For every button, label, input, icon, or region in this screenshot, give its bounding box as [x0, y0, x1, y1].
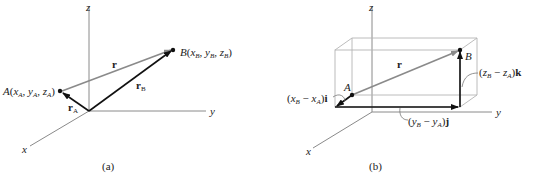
caption-a: (a) [102, 160, 115, 173]
label-component-z: (zB − zA)k [479, 66, 522, 80]
label-r: r [112, 58, 117, 70]
point-A [58, 89, 62, 93]
point-A-b [350, 93, 354, 97]
label-point-B-coords: B(xB, yB, zB) [180, 46, 232, 60]
leader-y [400, 108, 408, 120]
label-component-x: (xB − xA)i [287, 92, 327, 106]
x-axis [30, 111, 89, 146]
component-x-vector [337, 95, 352, 106]
label-B-b: B [465, 50, 472, 62]
x-axis-label: x [21, 143, 27, 155]
label-point-A-coords: A(xA, yA, zA) [2, 85, 55, 99]
label-A-b: A [343, 81, 351, 93]
x-axis-label-b: x [305, 145, 311, 157]
caption-b: (b) [369, 160, 382, 173]
label-r-b: r [397, 58, 402, 70]
point-B [171, 48, 175, 52]
vector-rB [89, 51, 171, 111]
point-B-b [458, 48, 462, 52]
panel-a: z y x r rA rB A(xA, yA, zA) B(xB, yB, zB… [2, 1, 232, 173]
y-axis-label: y [209, 105, 215, 117]
vector-r [62, 50, 171, 91]
leader-z [462, 73, 478, 87]
vector-r-b [352, 51, 458, 95]
z-axis-label: z [85, 1, 91, 13]
label-rB: rB [136, 79, 146, 93]
label-component-y: (yB − yA)j [408, 115, 449, 129]
z-axis-label-b: z [368, 1, 374, 13]
x-axis-b [313, 112, 372, 148]
panel-b: z y x A B r (xB − x [287, 1, 522, 173]
y-axis-label-b: y [495, 106, 501, 118]
